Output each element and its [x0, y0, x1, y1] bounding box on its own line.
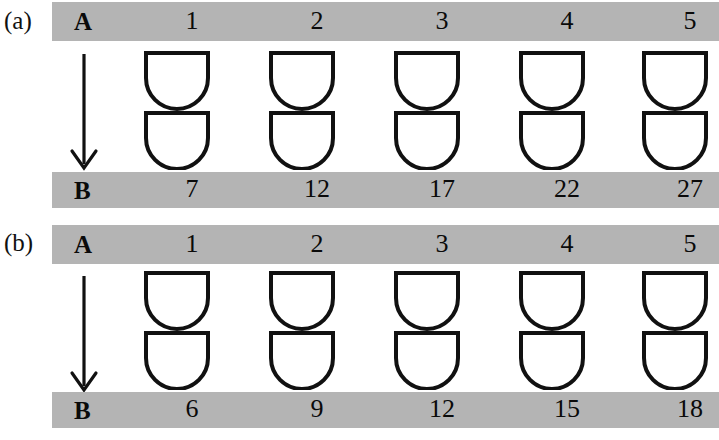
- panel-a-cup-stack-4: [515, 50, 589, 170]
- panel-b-tag: (b): [4, 230, 52, 255]
- panel-b-row-b-cell-3: 12: [412, 396, 472, 422]
- panel-b-row-b-cell-2: 9: [287, 396, 347, 422]
- figure-root: (a) A 1 2 3 4 5: [0, 0, 719, 440]
- panel-b-row-b-label: B: [74, 398, 91, 423]
- panel-a-down-arrow: [60, 52, 108, 172]
- panel-a-cup-stack-2: [265, 50, 339, 170]
- panel-b-row-a-cell-5: 5: [660, 231, 719, 257]
- panel-b: (b) A 1 2 3 4 5: [0, 222, 719, 440]
- panel-a-row-a-cell-5: 5: [660, 8, 719, 34]
- panel-a-row-b-cell-2: 12: [287, 176, 347, 202]
- panel-b-row-a-cell-4: 4: [537, 231, 597, 257]
- panel-b-row-a-cell-2: 2: [287, 231, 347, 257]
- cup-pair-icon: [140, 270, 214, 390]
- down-arrow-icon: [60, 274, 108, 394]
- cup-pair-icon: [390, 50, 464, 170]
- panel-b-cup-stack-1: [140, 270, 214, 390]
- panel-b-cup-stack-5: [638, 270, 712, 390]
- panel-a-row-b-cell-3: 17: [412, 176, 472, 202]
- panel-a-row-b-cell-5: 27: [660, 176, 719, 202]
- panel-a-row-a-cell-1: 1: [162, 8, 222, 34]
- cup-pair-icon: [638, 50, 712, 170]
- panel-a-row-b-label: B: [74, 178, 91, 203]
- down-arrow-icon: [60, 52, 108, 172]
- panel-a-cup-stack-5: [638, 50, 712, 170]
- panel-b-cup-stack-2: [265, 270, 339, 390]
- panel-b-row-b-bar: B 6 9 12 15 18: [52, 392, 719, 428]
- panel-a-row-a-bar: A 1 2 3 4 5: [52, 2, 719, 41]
- panel-a-cup-stack-1: [140, 50, 214, 170]
- panel-a-cup-stack-3: [390, 50, 464, 170]
- panel-a-tag: (a): [4, 8, 52, 33]
- cup-pair-icon: [265, 50, 339, 170]
- cup-pair-icon: [140, 50, 214, 170]
- panel-b-cup-stack-4: [515, 270, 589, 390]
- panel-b-row-a-cell-1: 1: [162, 231, 222, 257]
- panel-a: (a) A 1 2 3 4 5: [0, 0, 719, 220]
- panel-b-row-a-label: A: [74, 232, 92, 257]
- panel-a-row-a-cell-4: 4: [537, 8, 597, 34]
- panel-b-down-arrow: [60, 274, 108, 394]
- panel-a-row-b-cell-4: 22: [537, 176, 597, 202]
- panel-a-row-a-cell-2: 2: [287, 8, 347, 34]
- panel-b-cup-stack-3: [390, 270, 464, 390]
- panel-b-row-a-cell-3: 3: [412, 231, 472, 257]
- panel-b-row-a-bar: A 1 2 3 4 5: [52, 225, 719, 264]
- cup-pair-icon: [515, 270, 589, 390]
- cup-pair-icon: [515, 50, 589, 170]
- panel-a-row-b-cell-1: 7: [162, 176, 222, 202]
- cup-pair-icon: [638, 270, 712, 390]
- panel-a-row-b-bar: B 7 12 17 22 27: [52, 172, 719, 208]
- panel-b-row-b-cell-5: 18: [660, 396, 719, 422]
- panel-b-row-b-cell-4: 15: [537, 396, 597, 422]
- panel-a-row-a-cell-3: 3: [412, 8, 472, 34]
- cup-pair-icon: [265, 270, 339, 390]
- panel-b-row-b-cell-1: 6: [162, 396, 222, 422]
- panel-a-row-a-label: A: [74, 9, 92, 34]
- cup-pair-icon: [390, 270, 464, 390]
